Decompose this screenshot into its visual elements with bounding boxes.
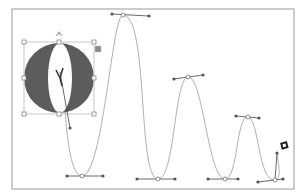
drawing-canvas[interactable] bbox=[0, 0, 303, 195]
resize-handle-sw[interactable] bbox=[22, 112, 26, 116]
resize-handle-n[interactable] bbox=[57, 40, 61, 44]
resize-handle-s[interactable] bbox=[57, 112, 61, 116]
handle-lines bbox=[60, 14, 283, 182]
resize-handle-nw[interactable] bbox=[22, 40, 26, 44]
anchor-points[interactable] bbox=[80, 13, 277, 182]
handle-points[interactable] bbox=[65, 12, 284, 183]
resize-handle-e[interactable] bbox=[92, 76, 96, 80]
rotate-icon[interactable] bbox=[56, 32, 62, 37]
selected-shape[interactable] bbox=[24, 43, 94, 113]
resize-handle-w[interactable] bbox=[22, 76, 26, 80]
square-options-icon[interactable] bbox=[95, 46, 101, 52]
resize-handle-ne[interactable] bbox=[92, 40, 96, 44]
resize-handle-se[interactable] bbox=[92, 112, 96, 116]
pen-cursor-icon bbox=[280, 141, 289, 150]
